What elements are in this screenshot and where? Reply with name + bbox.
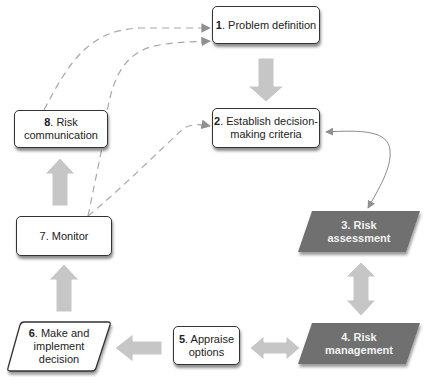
node-4-label-line2: management <box>325 344 393 356</box>
block-arrow-7-to-8 <box>45 158 75 206</box>
node-1-problem-definition[interactable]: 1. Problem definition <box>212 6 320 44</box>
block-arrow-1-to-2 <box>248 58 284 102</box>
node-2-label-line2: making criteria <box>230 128 302 140</box>
node-1-label: . Problem definition <box>222 19 316 31</box>
dashed-arrow-8-to-1 <box>44 28 210 110</box>
block-arrow-4-to-5 <box>250 336 300 360</box>
node-7-label: 7. Monitor <box>40 230 89 243</box>
block-arrow-3-to-4 <box>346 262 376 316</box>
node-4-risk-management[interactable]: 4. Riskmanagement <box>305 323 413 364</box>
node-8-risk-communication[interactable]: 8. Riskcommunication <box>14 110 108 148</box>
node-6-label-line2: implement <box>34 340 85 352</box>
block-arrow-6-to-7 <box>49 264 79 312</box>
node-5-label-line2: options <box>189 346 224 358</box>
node-2-label-line1: . Establish decision- <box>220 115 318 127</box>
node-3-label-line2: assessment <box>328 232 391 244</box>
node-3-label-line1: 3. Risk <box>341 219 376 231</box>
node-5-appraise-options[interactable]: 5. Appraiseoptions <box>173 326 240 365</box>
node-8-label-line2: communication <box>24 129 98 141</box>
node-8-label-line1: . Risk <box>50 116 78 128</box>
node-6-label-line3: decision <box>39 353 79 365</box>
node-7-monitor[interactable]: 7. Monitor <box>16 216 112 256</box>
node-2-establish-criteria[interactable]: 2. Establish decision-making criteria <box>212 108 320 148</box>
node-6-label-line1: . Make and <box>35 327 89 339</box>
node-4-label-line1: 4. Risk <box>341 331 376 343</box>
node-6-make-implement-decision[interactable]: 6. Make andimplementdecision <box>10 322 108 371</box>
block-arrow-5-to-6 <box>115 334 162 362</box>
node-5-label-line1: . Appraise <box>185 333 234 345</box>
node-3-risk-assessment[interactable]: 3. Riskassessment <box>305 211 413 252</box>
connector-2-3 <box>326 131 390 208</box>
